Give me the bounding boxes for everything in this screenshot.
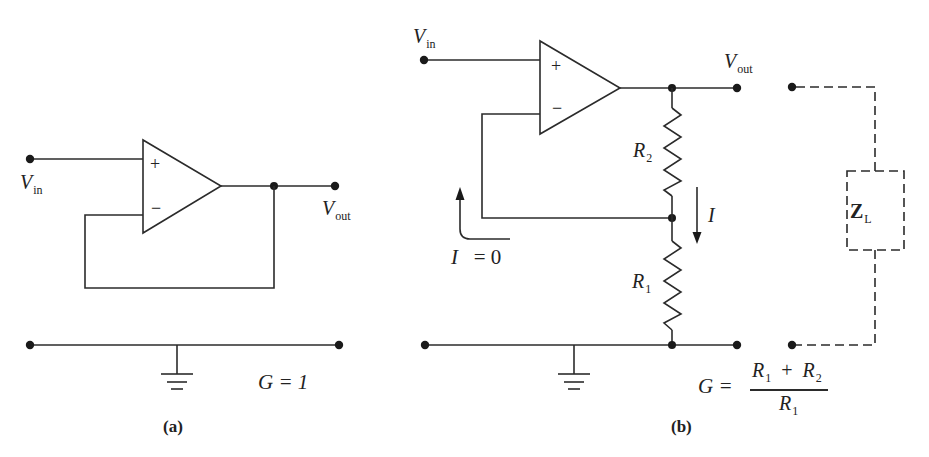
feedback-wire-a: [85, 186, 274, 288]
r2-label: R2: [633, 140, 652, 164]
current-label: I: [708, 205, 715, 225]
resistor-r1-icon: [664, 218, 681, 345]
output-terminal-a: [331, 182, 339, 190]
resistor-r2-icon: [664, 88, 681, 218]
vin-label-b: Vin: [413, 26, 436, 50]
caption-a: (a): [163, 418, 183, 435]
feedback-wire-b: [482, 114, 672, 218]
gain-lhs-b: G =: [698, 376, 733, 397]
ground-terminal-left-b: [421, 341, 429, 349]
vout-label-b: Vout: [724, 51, 753, 75]
op-amp-circuit-figure: Vin + − Vout G = 1 (a) Vin + − Vout R2 R…: [0, 0, 929, 457]
minus-sign-b: −: [552, 99, 562, 117]
gain-numerator: R1 + R2: [752, 360, 822, 384]
plus-sign-b: +: [551, 57, 561, 75]
ground-terminal-right-b: [733, 341, 741, 349]
ground-junction-b: [668, 341, 676, 349]
op-amp-b-icon: [540, 41, 620, 134]
ground-terminal-right-a: [335, 341, 343, 349]
input-terminal-b: [420, 56, 428, 64]
current-arrow-icon: [693, 187, 702, 244]
vin-label-a: Vin: [20, 172, 43, 196]
r1-label: R1: [632, 271, 651, 295]
ground-icon-a: [161, 345, 193, 389]
zero-current-label: I = 0: [451, 247, 501, 268]
load-impedance-label: ZL: [850, 201, 872, 225]
load-impedance-icon: [788, 83, 904, 349]
ground-icon-b: [558, 345, 590, 389]
gain-fraction-bar: [750, 389, 828, 391]
ground-terminal-left-a: [26, 341, 34, 349]
input-terminal-a: [26, 155, 34, 163]
vout-label-a: Vout: [322, 198, 351, 222]
plus-sign-a: +: [150, 155, 160, 173]
gain-denominator: R1: [779, 393, 798, 417]
panel-a-circuit: [26, 140, 343, 389]
minus-sign-a: −: [151, 199, 161, 217]
panel-b-circuit: [420, 41, 904, 389]
output-terminal-b: [733, 84, 741, 92]
caption-b: (b): [671, 418, 692, 435]
gain-formula-a: G = 1: [258, 372, 308, 393]
